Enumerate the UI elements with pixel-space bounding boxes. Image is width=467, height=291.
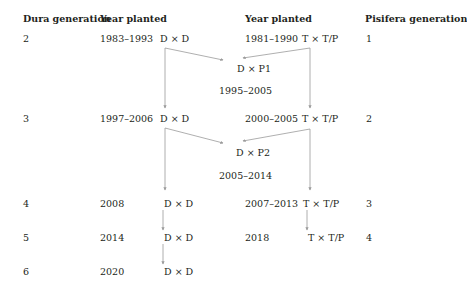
arrow-tt1-to-dp1 [243,48,310,58]
arrow-tt2-to-dp2 [243,129,310,141]
arrow-dd3-to-dp2 [165,128,223,143]
arrow-dd2-to-dp1 [165,48,223,60]
